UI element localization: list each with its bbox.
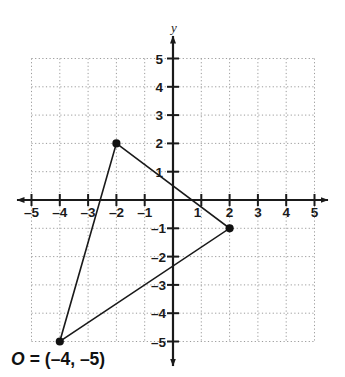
y-tick-label--3: –3: [151, 278, 167, 293]
x-tick-label-5: 5: [311, 205, 319, 220]
y-tick-label-5: 5: [155, 52, 163, 67]
y-tick-label-2: 2: [155, 136, 163, 151]
vertex-point-o: [56, 337, 64, 345]
coordinate-plane-svg: –5 –4 –3 –2 –1 1 2 3 4 5 5 4 3 2 1 –1 –2…: [0, 0, 345, 377]
point-o-equals: =: [30, 349, 40, 369]
y-tick-label-3: 3: [155, 108, 163, 123]
x-tick-label--4: –4: [52, 205, 68, 220]
y-tick-label--2: –2: [151, 250, 166, 265]
x-tick-label--2: –2: [109, 205, 124, 220]
y-tick-label--5: –5: [151, 335, 167, 350]
vertex-point-b: [226, 224, 234, 232]
vertex-point-a: [112, 139, 120, 147]
x-tick-label--5: –5: [24, 205, 40, 220]
point-o-symbol: O: [11, 349, 25, 369]
y-tick-label--1: –1: [151, 221, 167, 236]
x-tick-label--1: –1: [137, 205, 153, 220]
x-tick-label-4: 4: [282, 205, 290, 220]
x-tick-label--3: –3: [81, 205, 97, 220]
point-o-coords: (–4, –5): [45, 349, 105, 369]
coordinate-plane-figure: –5 –4 –3 –2 –1 1 2 3 4 5 5 4 3 2 1 –1 –2…: [0, 0, 345, 377]
x-tick-label-2: 2: [226, 205, 234, 220]
y-tick-label-4: 4: [155, 80, 163, 95]
y-tick-label--4: –4: [151, 306, 167, 321]
x-tick-label-3: 3: [254, 205, 262, 220]
y-axis-label: y: [169, 20, 177, 35]
